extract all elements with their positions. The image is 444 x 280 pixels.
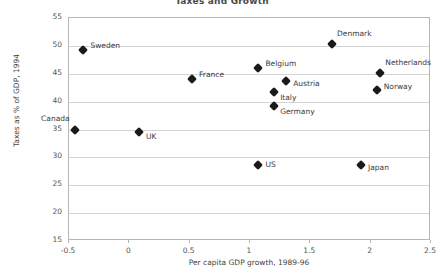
x-tick-mark: [430, 240, 431, 243]
gridline: [69, 74, 429, 75]
gridline: [69, 157, 429, 158]
data-point-label: Norway: [384, 82, 412, 91]
x-tick-label: 2: [350, 246, 390, 255]
data-point-label: Netherlands: [385, 58, 431, 67]
y-tick-label: 25: [36, 179, 62, 188]
data-point-label: France: [199, 70, 224, 79]
y-tick-label: 50: [36, 40, 62, 49]
x-tick-mark: [370, 240, 371, 243]
x-tick-mark: [189, 240, 190, 243]
data-point-label: Austria: [293, 79, 320, 88]
plot-area: CanadaSwedenUKFranceBelgiumUSItalyGerman…: [68, 17, 430, 240]
data-point-label: Belgium: [265, 59, 296, 68]
data-point-label: Sweden: [90, 41, 120, 50]
x-tick-label: 0.5: [169, 246, 209, 255]
x-tick-label: 0: [108, 246, 148, 255]
x-tick-mark: [128, 240, 129, 243]
data-point-label: UK: [146, 132, 156, 141]
data-point-label: Denmark: [337, 29, 371, 38]
gridline: [69, 130, 429, 131]
gridline: [69, 185, 429, 186]
x-tick-label: 2.5: [410, 246, 444, 255]
chart-title: Taxes and Growth: [0, 0, 444, 6]
data-point-label: Italy: [280, 93, 296, 102]
y-tick-label: 45: [36, 68, 62, 77]
y-tick-label: 30: [36, 151, 62, 160]
x-tick-mark: [68, 240, 69, 243]
x-tick-mark: [309, 240, 310, 243]
y-tick-label: 40: [36, 96, 62, 105]
gridline: [69, 213, 429, 214]
data-point-label: Japan: [368, 163, 389, 172]
y-tick-label: 15: [36, 235, 62, 244]
data-point-marker: [281, 76, 291, 86]
gridline: [69, 102, 429, 103]
data-point-marker: [253, 63, 263, 73]
data-point-marker: [375, 68, 385, 78]
data-point-label: Germany: [280, 107, 314, 116]
data-point-marker: [269, 87, 279, 97]
x-tick-label: -0.5: [48, 246, 88, 255]
x-tick-label: 1.5: [289, 246, 329, 255]
scatter-chart-figure: Taxes and Growth Taxes as % of GDP, 1994…: [0, 0, 444, 280]
x-tick-label: 1: [229, 246, 269, 255]
y-axis-title: Taxes as % of GDP, 1994: [12, 41, 21, 161]
data-point-marker: [372, 86, 382, 96]
x-tick-mark: [249, 240, 250, 243]
data-point-label: Canada: [41, 114, 70, 123]
data-point-marker: [356, 160, 366, 170]
y-tick-label: 55: [36, 12, 62, 21]
gridline: [69, 46, 429, 47]
data-point-marker: [327, 39, 337, 49]
y-tick-label: 20: [36, 207, 62, 216]
y-tick-label: 35: [36, 124, 62, 133]
data-point-label: US: [265, 160, 275, 169]
x-axis-title: Per capita GDP growth, 1989-96: [68, 258, 430, 267]
data-point-marker: [187, 74, 197, 84]
data-point-marker: [70, 125, 80, 135]
data-point-marker: [253, 160, 263, 170]
